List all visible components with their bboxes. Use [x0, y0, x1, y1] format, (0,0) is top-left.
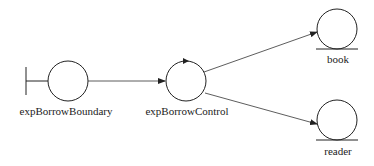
label-expBorrowControl: expBorrowControl	[145, 105, 228, 117]
robustness-diagram	[0, 0, 374, 166]
edge-control-to-book	[204, 32, 317, 72]
entity-circle-icon	[317, 100, 357, 140]
control-node-expBorrowControl	[166, 58, 206, 101]
boundary-circle-icon	[48, 61, 88, 101]
entity-node-book	[316, 9, 358, 49]
label-book: book	[327, 53, 349, 65]
label-expBorrowBoundary: expBorrowBoundary	[20, 105, 113, 117]
control-circle-icon	[166, 61, 206, 101]
entity-node-reader	[316, 100, 358, 140]
control-arrowhead-icon	[183, 58, 189, 64]
label-reader: reader	[324, 145, 351, 157]
boundary-node-expBorrowBoundary	[26, 61, 88, 101]
entity-circle-icon	[317, 9, 357, 49]
